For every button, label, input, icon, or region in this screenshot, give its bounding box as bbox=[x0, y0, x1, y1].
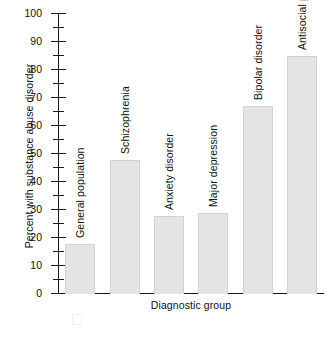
bar-group: Bipolar disorder bbox=[243, 14, 273, 294]
bar bbox=[65, 244, 95, 294]
y-axis-tick-label: 40 bbox=[30, 175, 42, 187]
bar bbox=[287, 56, 317, 294]
y-axis-tick-label: 100 bbox=[24, 7, 42, 19]
y-axis-tick-label: 10 bbox=[30, 259, 42, 271]
plot-area: 0102030405060708090100 General populatio… bbox=[58, 14, 324, 294]
y-axis-tick-label: 30 bbox=[30, 203, 42, 215]
bar-chart-figure: Percent with substance abuse disorder 01… bbox=[0, 0, 332, 338]
bar bbox=[198, 213, 228, 294]
y-axis-tick-label: 60 bbox=[30, 119, 42, 131]
bar-category-label: Bipolar disorder bbox=[252, 25, 264, 100]
bar bbox=[243, 106, 273, 294]
bar-category-label: Anxiety disorder bbox=[163, 133, 175, 210]
y-axis-tick-label: 20 bbox=[30, 231, 42, 243]
bar-group: Major depression bbox=[198, 14, 228, 294]
scan-artifact bbox=[72, 314, 82, 325]
bar-group: Antisocial personality disorder bbox=[287, 14, 317, 294]
y-axis-tick-label: 70 bbox=[30, 91, 42, 103]
bar-category-label: Antisocial personality disorder bbox=[296, 0, 308, 50]
bar bbox=[110, 160, 140, 294]
bars-layer: General populationSchizophreniaAnxiety d… bbox=[58, 14, 324, 294]
y-axis-tick-label: 0 bbox=[36, 287, 42, 299]
y-axis-tick-label: 50 bbox=[30, 147, 42, 159]
x-axis-title: Diagnostic group bbox=[58, 299, 324, 311]
bar bbox=[154, 216, 184, 294]
y-axis-tick-label: 90 bbox=[30, 35, 42, 47]
bar-group: Anxiety disorder bbox=[154, 14, 184, 294]
bar-group: General population bbox=[65, 14, 95, 294]
bar-group: Schizophrenia bbox=[110, 14, 140, 294]
bar-category-label: Schizophrenia bbox=[119, 86, 131, 154]
bar-category-label: Major depression bbox=[207, 125, 219, 207]
y-axis-tick-label: 80 bbox=[30, 63, 42, 75]
bar-category-label: General population bbox=[74, 147, 86, 238]
